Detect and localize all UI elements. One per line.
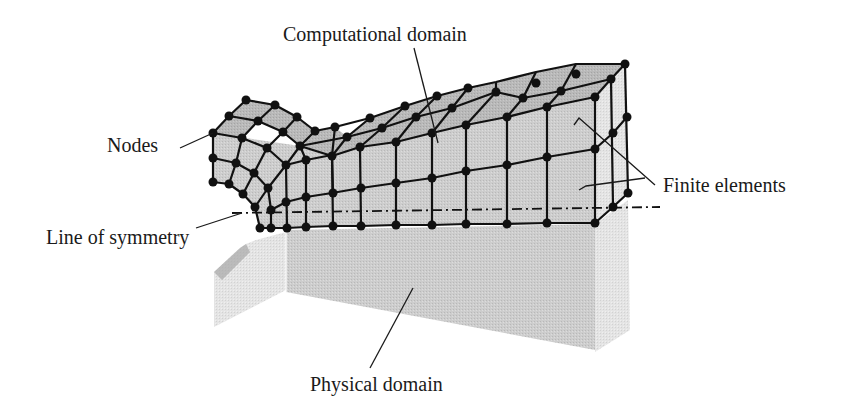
label-line-of-symmetry: Line of symmetry [46, 227, 189, 247]
label-nodes: Nodes [107, 135, 158, 155]
label-finite-elements: Finite elements [663, 175, 786, 195]
diagram-canvas [0, 0, 864, 417]
physical-front-face [286, 224, 595, 350]
label-physical-domain: Physical domain [310, 374, 443, 394]
leader-line-of-symmetry [196, 213, 242, 228]
fem-diagram: Computational domain Nodes Finite elemen… [0, 0, 864, 417]
computational-mesh [213, 64, 628, 228]
label-computational-domain: Computational domain [283, 24, 467, 44]
physical-side-face [595, 200, 630, 352]
physical-left-wing [214, 232, 286, 327]
leader-nodes [180, 133, 213, 148]
